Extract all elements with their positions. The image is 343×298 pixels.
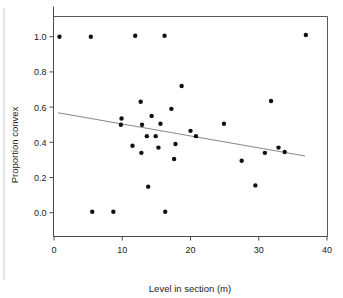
x-tick-label: 20 bbox=[185, 245, 195, 255]
data-point bbox=[119, 123, 123, 127]
data-point bbox=[239, 159, 243, 163]
data-point bbox=[149, 114, 153, 118]
data-point bbox=[162, 34, 166, 38]
data-point bbox=[140, 123, 144, 127]
x-tick-label: 40 bbox=[322, 245, 332, 255]
y-tick-label: 1.0 bbox=[34, 32, 47, 42]
data-point bbox=[139, 151, 143, 155]
data-point bbox=[138, 100, 142, 104]
data-point bbox=[119, 116, 123, 120]
data-point bbox=[133, 34, 137, 38]
regression-line-path bbox=[58, 113, 305, 156]
data-point bbox=[173, 142, 177, 146]
data-point bbox=[194, 134, 198, 138]
x-tick-label: 10 bbox=[117, 245, 127, 255]
x-tick-label: 30 bbox=[254, 245, 264, 255]
data-point bbox=[188, 129, 192, 133]
y-tick-label: 0.0 bbox=[34, 208, 47, 218]
data-point bbox=[130, 144, 134, 148]
y-tick-label: 0.6 bbox=[34, 103, 47, 113]
x-axis-title: Level in section (m) bbox=[149, 283, 231, 294]
data-points bbox=[57, 33, 308, 214]
data-point bbox=[172, 157, 176, 161]
data-point bbox=[111, 210, 115, 214]
y-tick-label: 0.4 bbox=[34, 138, 47, 148]
data-point bbox=[153, 134, 157, 138]
data-point bbox=[163, 210, 167, 214]
data-point bbox=[179, 84, 183, 88]
data-point bbox=[253, 183, 257, 187]
data-point bbox=[222, 122, 226, 126]
data-point bbox=[269, 99, 273, 103]
data-point bbox=[304, 33, 308, 37]
x-tick-label: 0 bbox=[51, 245, 56, 255]
data-point bbox=[89, 35, 93, 39]
y-tick-label: 0.8 bbox=[34, 67, 47, 77]
data-point bbox=[158, 122, 162, 126]
figure-panel: 010203040 0.00.20.40.60.81.0 Level in se… bbox=[0, 0, 343, 298]
regression-line bbox=[58, 113, 305, 156]
data-point bbox=[282, 150, 286, 154]
data-point bbox=[145, 134, 149, 138]
plot-frame bbox=[54, 17, 328, 237]
data-point bbox=[90, 210, 94, 214]
data-point bbox=[156, 145, 160, 149]
data-point bbox=[57, 35, 61, 39]
data-point bbox=[276, 145, 280, 149]
y-axis-ticks: 0.00.20.40.60.81.0 bbox=[34, 7, 54, 237]
y-tick-label: 0.2 bbox=[34, 173, 47, 183]
scatter-plot: 010203040 0.00.20.40.60.81.0 Level in se… bbox=[0, 0, 343, 298]
x-axis-ticks: 010203040 bbox=[51, 237, 332, 255]
data-point bbox=[146, 184, 150, 188]
data-point bbox=[169, 107, 173, 111]
data-point bbox=[263, 151, 267, 155]
y-axis-title: Proportion convex bbox=[9, 106, 20, 183]
